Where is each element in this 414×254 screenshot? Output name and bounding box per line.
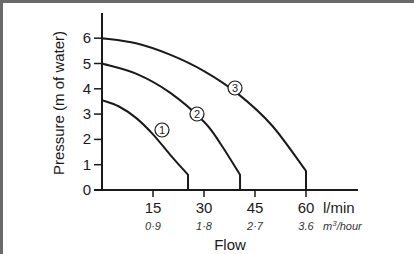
x-unit-secondary: m3/hour bbox=[323, 219, 363, 232]
pump-curve-chart: 0123456150·9301·8452·7603.6l/minm3/hourF… bbox=[0, 0, 414, 254]
plot-area: 0123456150·9301·8452·7603.6l/minm3/hourF… bbox=[50, 13, 363, 253]
y-tick-label: 6 bbox=[83, 29, 91, 46]
x-tick-sublabel: 2·7 bbox=[246, 220, 264, 232]
curve-label-3: 3 bbox=[232, 82, 238, 94]
x-tick-label: 60 bbox=[298, 199, 315, 216]
x-tick-sublabel: 1·8 bbox=[196, 220, 213, 232]
x-tick-label: 30 bbox=[196, 199, 213, 216]
y-tick-label: 2 bbox=[83, 130, 91, 147]
y-tick-label: 0 bbox=[83, 181, 91, 198]
x-tick-label: 45 bbox=[247, 199, 264, 216]
x-tick-sublabel: 3.6 bbox=[298, 220, 314, 232]
x-tick-sublabel: 0·9 bbox=[145, 220, 161, 232]
y-tick-label: 1 bbox=[83, 156, 91, 173]
x-axis-title: Flow bbox=[214, 236, 246, 253]
x-unit-primary: l/min bbox=[323, 199, 355, 216]
curve-2 bbox=[102, 64, 240, 191]
y-tick-label: 4 bbox=[83, 80, 91, 97]
curve-label-1: 1 bbox=[159, 124, 165, 136]
x-tick-label: 15 bbox=[145, 199, 162, 216]
curve-1 bbox=[102, 100, 188, 190]
curve-label-2: 2 bbox=[194, 108, 200, 120]
y-tick-label: 5 bbox=[83, 55, 91, 72]
y-tick-label: 3 bbox=[83, 105, 91, 122]
y-axis-title: Pressure (m of water) bbox=[50, 31, 67, 175]
